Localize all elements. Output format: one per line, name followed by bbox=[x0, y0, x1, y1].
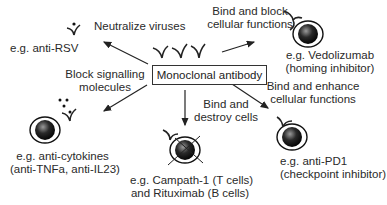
mechanism-block-cellular: Bind and block cellular functions bbox=[205, 5, 295, 31]
example-destroy: e.g. Campath-1 (T cells) and Rituximab (… bbox=[130, 174, 250, 200]
example-enhance: e.g. anti-PD1 (checkpoint inhibitor) bbox=[280, 155, 386, 181]
virus-icon bbox=[67, 22, 80, 35]
cytokine-icon bbox=[59, 99, 77, 122]
mechanism-destroy: Bind and destroy cells bbox=[190, 98, 262, 124]
mechanism-neutralize: Neutralize viruses bbox=[94, 20, 185, 33]
mechanism-enhance: Bind and enhance cellular functions bbox=[263, 80, 363, 106]
example-block-cellular: e.g. Vedolizumab (homing inhibitor) bbox=[282, 49, 378, 75]
example-neutralize: e.g. anti-RSV bbox=[10, 42, 78, 55]
cell-icon bbox=[163, 130, 203, 165]
example-block-signalling: e.g. anti-cytokines (anti-TNFa, anti-IL2… bbox=[10, 150, 115, 176]
cell-icon bbox=[30, 117, 60, 143]
monoclonal-antibody-diagram: Monoclonal antibody Neutralize viruses e… bbox=[0, 0, 387, 205]
mechanism-block-signalling: Block signalling molecules bbox=[62, 68, 148, 94]
center-label: Monoclonal antibody bbox=[152, 65, 267, 85]
cell-icon bbox=[277, 117, 307, 150]
antibody-icon bbox=[153, 44, 205, 58]
